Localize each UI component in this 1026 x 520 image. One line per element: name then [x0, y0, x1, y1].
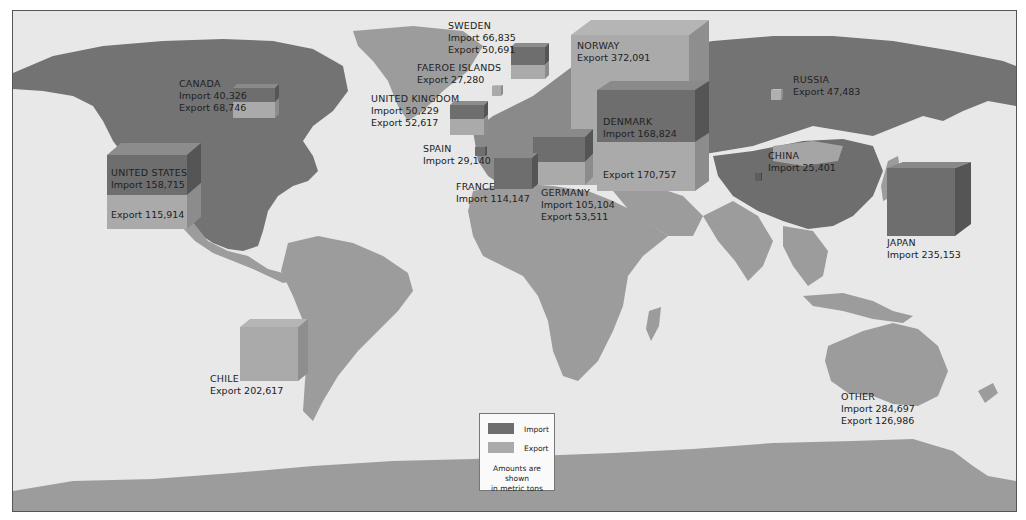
- other-export: Export 126,986: [841, 415, 915, 427]
- united-states-label: UNITED STATES Import 158,715: [111, 167, 187, 191]
- canada-import: Import 40,326: [179, 90, 247, 102]
- legend: Import Export Amounts are shown in metri…: [479, 413, 555, 491]
- world-map: CANADA Import 40,326 Export 68,746 UNITE…: [12, 10, 1017, 512]
- china-label: CHINA Import 25,401: [768, 150, 836, 174]
- norway-name: NORWAY: [577, 40, 650, 52]
- legend-note-line1: Amounts are shown: [480, 464, 554, 484]
- china-import: Import 25,401: [768, 162, 836, 174]
- united-states-export: Export 115,914: [111, 209, 184, 221]
- spain-label: SPAIN Import 29,140: [423, 143, 491, 167]
- france-name: FRANCE: [456, 181, 530, 193]
- germany-label: GERMANY Import 105,104 Export 53,511: [541, 187, 615, 223]
- russia-name: RUSSIA: [793, 74, 860, 86]
- germany-import: Import 105,104: [541, 199, 615, 211]
- other-label: OTHER Import 284,697 Export 126,986: [841, 391, 915, 427]
- denmark-import: Import 168,824: [603, 128, 677, 140]
- russia-cube: [771, 85, 783, 104]
- legend-export-label: Export: [524, 444, 549, 453]
- canada-name: CANADA: [179, 78, 247, 90]
- sweden-export: Export 50,691: [448, 44, 516, 56]
- germany-export: Export 53,511: [541, 211, 615, 223]
- sweden-label: SWEDEN Import 66,835 Export 50,691: [448, 20, 516, 56]
- france-import: Import 114,147: [456, 193, 530, 205]
- denmark-label: DENMARK Import 168,824: [603, 116, 677, 140]
- united-kingdom-import: Import 50,229: [371, 105, 459, 117]
- canada-label: CANADA Import 40,326 Export 68,746: [179, 78, 247, 114]
- legend-export-swatch: [488, 442, 514, 453]
- other-name: OTHER: [841, 391, 915, 403]
- japan-cube: [887, 162, 971, 240]
- japan-import: Import 235,153: [887, 249, 961, 261]
- china-cube: [755, 166, 762, 185]
- japan-name: JAPAN: [887, 237, 961, 249]
- russia-label: RUSSIA Export 47,483: [793, 74, 860, 98]
- norway-export: Export 372,091: [577, 52, 650, 64]
- germany-name: GERMANY: [541, 187, 615, 199]
- japan-label: JAPAN Import 235,153: [887, 237, 961, 261]
- chile-label: CHILE Export 202,617: [210, 373, 283, 397]
- denmark-export-label: Export 170,757: [603, 169, 676, 181]
- united-kingdom-export: Export 52,617: [371, 117, 459, 129]
- faeroe-islands-name: FAEROE ISLANDS: [417, 62, 501, 74]
- denmark-export: Export 170,757: [603, 169, 676, 181]
- united-states-export-label: Export 115,914: [111, 209, 184, 221]
- spain-name: SPAIN: [423, 143, 491, 155]
- united-states-name: UNITED STATES: [111, 167, 187, 179]
- united-kingdom-name: UNITED KINGDOM: [371, 93, 459, 105]
- sweden-name: SWEDEN: [448, 20, 516, 32]
- legend-note: Amounts are shown in metric tons: [480, 464, 554, 494]
- chile-export: Export 202,617: [210, 385, 283, 397]
- legend-import-swatch: [488, 423, 514, 434]
- chile-name: CHILE: [210, 373, 283, 385]
- legend-import-label: Import: [524, 425, 549, 434]
- faeroe-islands-label: FAEROE ISLANDS Export 27,280: [417, 62, 501, 86]
- legend-note-line2: in metric tons: [480, 484, 554, 494]
- norway-label: NORWAY Export 372,091: [577, 40, 650, 64]
- france-label: FRANCE Import 114,147: [456, 181, 530, 205]
- united-states-import: Import 158,715: [111, 179, 187, 191]
- united-kingdom-label: UNITED KINGDOM Import 50,229 Export 52,6…: [371, 93, 459, 129]
- sweden-import: Import 66,835: [448, 32, 516, 44]
- germany-cube: [533, 129, 593, 189]
- canada-export: Export 68,746: [179, 102, 247, 114]
- denmark-name: DENMARK: [603, 116, 677, 128]
- china-name: CHINA: [768, 150, 836, 162]
- faeroe-islands-export: Export 27,280: [417, 74, 501, 86]
- russia-export: Export 47,483: [793, 86, 860, 98]
- other-import: Import 284,697: [841, 403, 915, 415]
- spain-import: Import 29,140: [423, 155, 491, 167]
- sweden-cube: [511, 43, 549, 83]
